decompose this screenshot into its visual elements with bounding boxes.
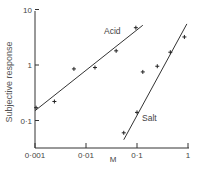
series-layer: AcidSalt [34, 24, 187, 140]
x-tick-label: 0·01 [78, 151, 95, 160]
fit-line [35, 25, 143, 110]
data-point-plus-icon [182, 35, 186, 39]
y-tick-label: 10 [23, 6, 32, 15]
x-tick-label: 0·1 [131, 151, 143, 160]
y-tick-label: 0·1 [20, 117, 32, 126]
x-tick-label: 0·001 [25, 151, 46, 160]
data-point-plus-icon [93, 66, 97, 70]
data-point-plus-icon [155, 64, 159, 68]
series-salt: Salt [122, 24, 187, 140]
data-point-plus-icon [122, 131, 126, 135]
series-label: Salt [142, 113, 157, 123]
data-point-plus-icon [141, 70, 145, 74]
log-log-chart: 0·1110 0·0010·010·11 Subjective response… [0, 0, 205, 172]
data-point-plus-icon [114, 49, 118, 53]
series-acid: Acid [34, 25, 143, 110]
x-tick-label: 1 [186, 151, 191, 160]
series-label: Acid [104, 26, 121, 36]
x-marker-label: M [110, 155, 117, 164]
data-point-plus-icon [72, 67, 76, 71]
y-axis-title: Subjective response [4, 41, 14, 122]
y-tick-label: 1 [28, 61, 33, 70]
data-point-plus-icon [52, 99, 56, 103]
x-ticks: 0·0010·010·11 [25, 143, 191, 160]
